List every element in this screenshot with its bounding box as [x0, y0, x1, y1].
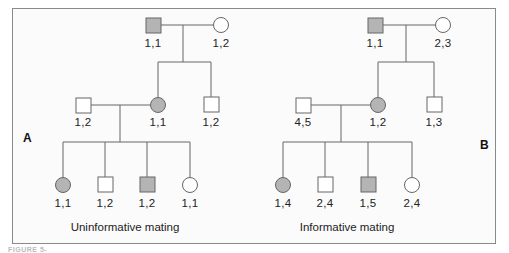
a-gen3-child4-circle [183, 178, 198, 193]
a-gen3-child3-square [140, 177, 155, 192]
b-gen3-child2-square [318, 177, 333, 192]
genotype-label: 4,5 [295, 116, 312, 128]
a-gen3-child1-circle [56, 178, 71, 193]
genotype-label: 1,5 [360, 197, 377, 209]
genotype-label: 1,2 [75, 116, 92, 128]
genotype-label: 1,3 [426, 116, 443, 128]
b-gen2-daughter-circle [371, 98, 386, 113]
genotype-label: 1,1 [55, 197, 72, 209]
panel-a-letter: A [23, 131, 32, 145]
a-gen2-spouse-square [76, 98, 91, 113]
panel-b-letter: B [480, 138, 489, 152]
a-gen1-mother-circle [214, 18, 229, 33]
genotype-label: 2,3 [435, 37, 452, 49]
genotype-label: 1,2 [213, 37, 230, 49]
genotype-label: 1,4 [275, 197, 292, 209]
panel-b-caption: Informative mating [300, 221, 395, 233]
genotype-label: 1,1 [150, 116, 167, 128]
a-gen3-child2-square [98, 177, 113, 192]
b-gen1-father-square [368, 18, 383, 33]
genotype-label: 1,2 [97, 197, 114, 209]
genotype-label: 2,4 [404, 197, 421, 209]
a-gen2-daughter-circle [151, 98, 166, 113]
a-gen2-son-square [204, 97, 219, 112]
genotype-label: 1,1 [182, 197, 199, 209]
genotype-label: 1,2 [139, 197, 156, 209]
b-gen3-child3-square [361, 177, 376, 192]
b-gen2-spouse-square [296, 98, 311, 113]
b-gen2-son-square [427, 97, 442, 112]
b-gen3-child1-circle [276, 178, 291, 193]
b-gen3-child4-circle [405, 178, 420, 193]
genotype-label: 1,2 [370, 116, 387, 128]
figure-caption-fragment: FIGURE 5- [8, 246, 47, 253]
panel-a-caption: Uninformative mating [71, 221, 180, 233]
a-gen1-father-square [146, 18, 161, 33]
genotype-label: 1,1 [145, 37, 162, 49]
genotype-label: 2,4 [317, 197, 334, 209]
genotype-label: 1,1 [367, 37, 384, 49]
genotype-label: 1,2 [203, 116, 220, 128]
b-gen1-mother-circle [436, 18, 451, 33]
